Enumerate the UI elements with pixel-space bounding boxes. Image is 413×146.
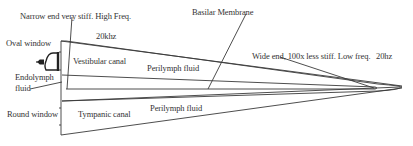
endolymph-label-line1: Endolymph — [15, 73, 54, 82]
narrow-end-pointer — [67, 17, 72, 89]
freq-high-label: 20khz — [96, 32, 116, 41]
narrow-end-label: Narrow end very stiff. High Freq. — [20, 12, 131, 21]
round-window-label: Round window — [7, 110, 58, 119]
wide-end-label: Wide end, 100x less stiff. Low freq. — [252, 52, 370, 61]
basilar-membrane-pointer — [208, 14, 246, 89]
freq-low-label: 20hz — [376, 52, 392, 61]
oval-window-label: Oval window — [6, 39, 51, 48]
vestibular-canal-label: Vestibular canal — [73, 57, 126, 66]
tympanic-canal-label: Tympanic canal — [78, 110, 131, 119]
perilymph-lower-label: Perilymph fluid — [150, 104, 202, 113]
cochlea-diagram: Narrow end very stiff. High Freq. Basila… — [0, 0, 413, 146]
basilar-membrane-label: Basilar Membrane — [192, 8, 253, 17]
endolymph-pointer — [30, 82, 62, 89]
endolymph-label-line2: fluid — [15, 84, 31, 93]
cochlea-outline — [61, 41, 402, 101]
stapes-icon — [36, 52, 58, 71]
cochlea-drawing — [0, 0, 413, 146]
perilymph-upper-label: Perilymph fluid — [147, 64, 199, 73]
